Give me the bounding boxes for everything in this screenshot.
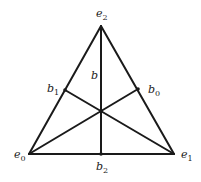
label-b2: b2 (96, 160, 108, 175)
label-b1: b1 (47, 82, 59, 97)
point-b2 (99, 152, 103, 156)
label-b: b (91, 69, 98, 82)
label-e2: e2 (96, 7, 108, 22)
label-e0: e0 (14, 148, 26, 163)
median-e0-b0 (29, 89, 138, 154)
barycentric-triangle-diagram: e0e1e2b0b1b2b (0, 0, 201, 182)
label-b0: b0 (148, 83, 160, 98)
point-b0 (136, 87, 140, 91)
point-b (99, 109, 103, 113)
label-e1: e1 (181, 148, 193, 163)
point-b1 (63, 88, 67, 92)
